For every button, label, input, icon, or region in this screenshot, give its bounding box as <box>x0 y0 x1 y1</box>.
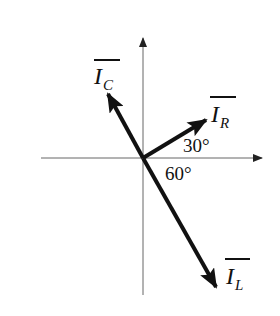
label-ic-main: I <box>94 63 102 89</box>
angle-30-label: 30° <box>183 136 210 155</box>
label-il-main: I <box>226 263 234 289</box>
label-ir-sub: R <box>220 115 229 131</box>
vectors <box>108 94 216 287</box>
il-overbar <box>225 258 250 260</box>
ir-overbar <box>210 96 236 98</box>
label-ir-main: I <box>211 101 219 127</box>
axes <box>41 38 262 295</box>
label-ir: IR <box>211 102 229 126</box>
phasor-diagram: IC IR IL 30° 60° <box>0 0 280 316</box>
label-ic: IC <box>94 64 113 88</box>
label-il: IL <box>226 264 243 288</box>
label-il-sub: L <box>235 277 243 293</box>
vector-ic <box>108 94 143 158</box>
label-ic-sub: C <box>103 77 113 93</box>
angle-60-label: 60° <box>165 164 192 183</box>
ic-overbar <box>94 59 120 61</box>
